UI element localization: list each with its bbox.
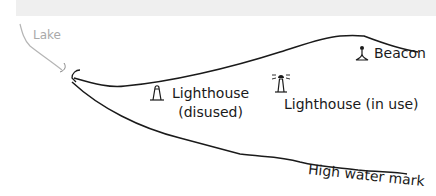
lighthouse-disused-label-line1: Lighthouse bbox=[172, 84, 249, 103]
lighthouse-disused-label: Lighthouse (disused) bbox=[172, 84, 249, 122]
lighthouse-disused-icon bbox=[150, 86, 164, 100]
lighthouse-in-use-label: Lighthouse (in use) bbox=[284, 96, 419, 112]
beacon-icon bbox=[356, 46, 368, 60]
upper-shoreline bbox=[74, 36, 418, 87]
lighthouse-in-use-icon bbox=[272, 75, 290, 92]
river-mouth-mark bbox=[72, 70, 80, 82]
beacon-label: Beacon bbox=[374, 45, 426, 61]
lighthouse-disused-label-line2: (disused) bbox=[172, 103, 249, 122]
lake-label: Lake bbox=[33, 27, 61, 43]
